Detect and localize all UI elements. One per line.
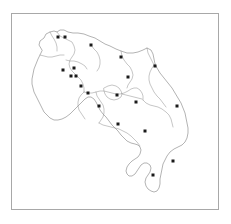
site-marker bbox=[62, 69, 65, 72]
site-marker bbox=[176, 105, 179, 108]
site-marker bbox=[57, 36, 60, 39]
site-marker bbox=[172, 160, 175, 163]
site-marker bbox=[75, 75, 78, 78]
site-marker bbox=[73, 67, 76, 70]
site-marker bbox=[154, 65, 157, 68]
site-marker bbox=[144, 130, 147, 133]
site-marker bbox=[90, 44, 93, 47]
costa-rica-map bbox=[0, 0, 231, 224]
site-marker bbox=[64, 36, 67, 39]
site-marker bbox=[127, 76, 130, 79]
map-figure bbox=[0, 0, 231, 224]
site-marker bbox=[98, 105, 101, 108]
site-marker bbox=[116, 94, 119, 97]
site-marker bbox=[135, 101, 138, 104]
site-marker bbox=[120, 56, 123, 59]
site-marker bbox=[87, 92, 90, 95]
site-marker bbox=[70, 75, 73, 78]
site-marker bbox=[152, 174, 155, 177]
site-marker bbox=[117, 123, 120, 126]
site-marker bbox=[80, 85, 83, 88]
